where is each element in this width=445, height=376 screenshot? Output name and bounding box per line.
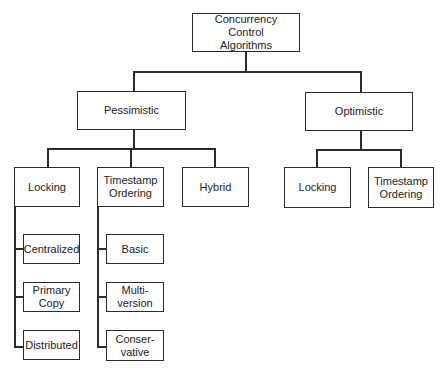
node-optimistic-locking: Locking — [284, 167, 351, 208]
connector — [214, 148, 216, 167]
connector — [316, 149, 401, 151]
concurrency-control-tree: Concurrency Control Algorithms Pessimist… — [0, 0, 445, 376]
connector — [133, 71, 135, 91]
connector — [133, 71, 361, 73]
node-basic: Basic — [106, 234, 164, 264]
node-pessimistic-timestamp-ordering: Timestamp Ordering — [97, 167, 164, 207]
connector — [133, 129, 135, 149]
connector — [14, 346, 23, 348]
connector — [97, 296, 106, 298]
node-primary-copy: Primary Copy — [23, 282, 80, 312]
node-centralized: Centralized — [23, 234, 80, 264]
connector — [97, 206, 99, 348]
node-multi-version: Multi- version — [106, 282, 164, 312]
node-distributed: Distributed — [23, 330, 80, 360]
node-hybrid: Hybrid — [182, 167, 249, 207]
connector — [400, 149, 402, 167]
connector — [97, 248, 106, 250]
connector — [97, 346, 106, 348]
connector — [360, 130, 362, 149]
node-root: Concurrency Control Algorithms — [192, 13, 300, 52]
node-optimistic-timestamp-ordering: Timestamp Ordering — [368, 167, 434, 208]
node-optimistic: Optimistic — [305, 92, 413, 131]
connector — [14, 248, 23, 250]
connector — [245, 51, 247, 72]
connector — [130, 148, 132, 167]
connector — [360, 71, 362, 92]
connector — [47, 148, 49, 167]
node-pessimistic: Pessimistic — [77, 91, 186, 130]
connector — [14, 206, 16, 348]
node-pessimistic-locking: Locking — [14, 167, 80, 207]
connector — [316, 149, 318, 167]
node-conservative: Conser- vative — [106, 330, 164, 361]
connector — [14, 296, 23, 298]
